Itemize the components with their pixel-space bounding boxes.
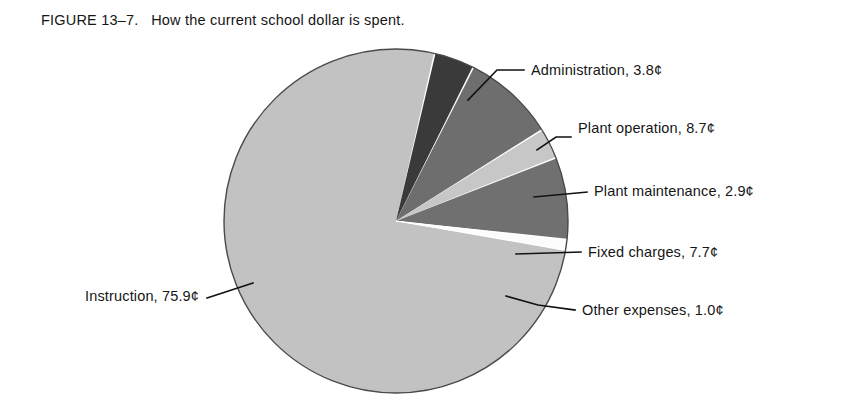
slice-label-administration: Administration, 3.8¢: [531, 62, 662, 78]
slice-label-other-expenses: Other expenses, 1.0¢: [582, 302, 724, 318]
pie-chart: Administration, 3.8¢ Plant operation, 8.…: [0, 0, 841, 417]
pie-slices: [224, 49, 568, 393]
slice-label-plant-maintenance: Plant maintenance, 2.9¢: [594, 183, 754, 199]
figure-container: FIGURE 13–7. How the current school doll…: [0, 0, 841, 417]
slice-label-instruction: Instruction, 75.9¢: [85, 288, 199, 304]
slice-label-fixed-charges: Fixed charges, 7.7¢: [588, 244, 718, 260]
slice-label-plant-operation: Plant operation, 8.7¢: [578, 120, 715, 136]
